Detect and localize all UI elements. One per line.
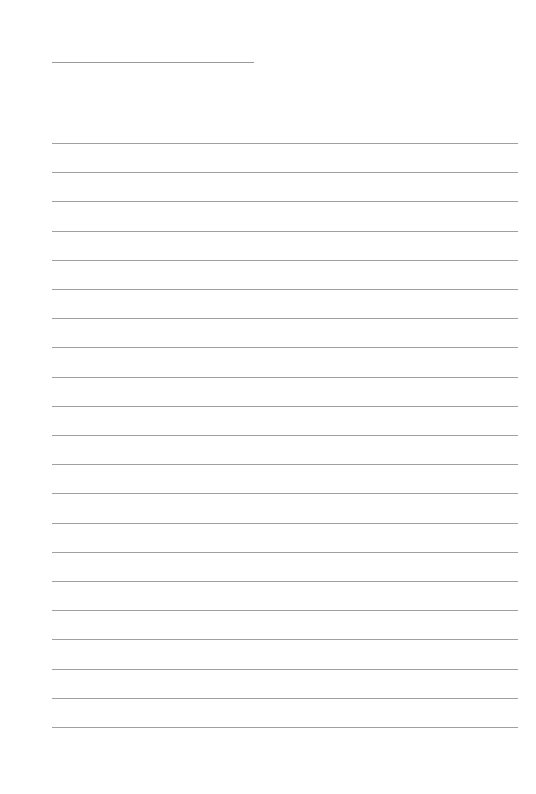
title-line[interactable] xyxy=(52,62,254,63)
ruled-line[interactable] xyxy=(52,552,518,553)
ruled-line[interactable] xyxy=(52,143,518,144)
ruled-line[interactable] xyxy=(52,698,518,699)
ruled-line[interactable] xyxy=(52,201,518,202)
ruled-line[interactable] xyxy=(52,435,518,436)
ruled-line[interactable] xyxy=(52,289,518,290)
ruled-line[interactable] xyxy=(52,231,518,232)
ruled-line[interactable] xyxy=(52,406,518,407)
ruled-line[interactable] xyxy=(52,377,518,378)
ruled-line[interactable] xyxy=(52,347,518,348)
ruled-line[interactable] xyxy=(52,610,518,611)
ruled-line[interactable] xyxy=(52,464,518,465)
ruled-line[interactable] xyxy=(52,523,518,524)
lined-page xyxy=(0,0,536,794)
ruled-line[interactable] xyxy=(52,581,518,582)
ruled-line[interactable] xyxy=(52,172,518,173)
ruled-line[interactable] xyxy=(52,639,518,640)
ruled-line[interactable] xyxy=(52,260,518,261)
ruled-line[interactable] xyxy=(52,669,518,670)
ruled-line[interactable] xyxy=(52,493,518,494)
ruled-line[interactable] xyxy=(52,727,518,728)
ruled-line[interactable] xyxy=(52,318,518,319)
